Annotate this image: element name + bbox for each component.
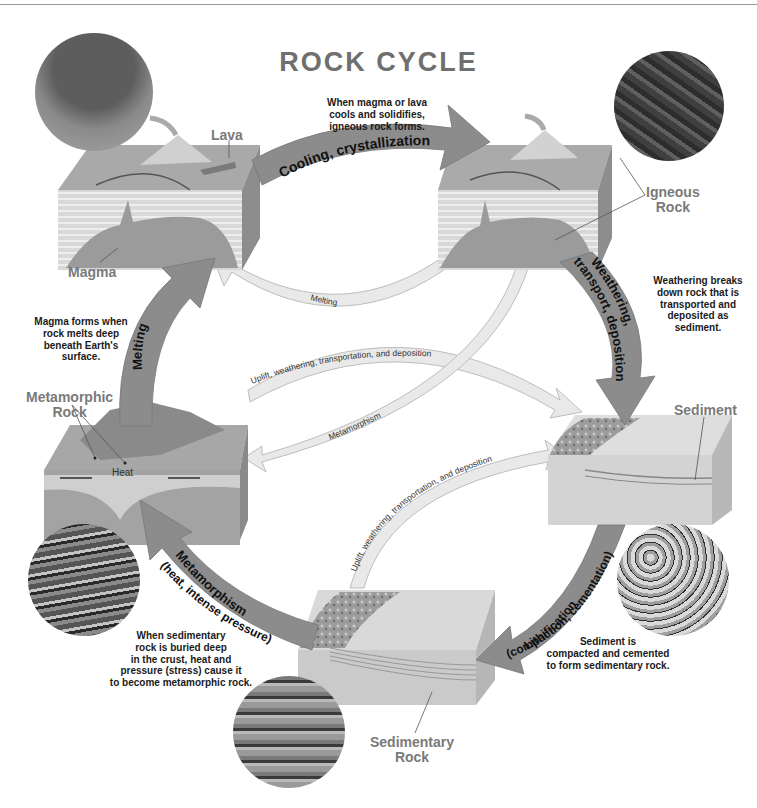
lava-photo (35, 33, 153, 151)
metamorphic-note-line: in the crust, heat and (96, 654, 266, 666)
metamorphic-note-line: When sedimentary (96, 630, 266, 642)
magma-label: Magma (68, 265, 116, 280)
sediment-label: Sediment (674, 403, 737, 418)
sediment-note: Sediment is compacted and cemented to fo… (538, 636, 678, 671)
metamorphic-rock-label: Metamorphic Rock (26, 390, 113, 419)
heat-label: Heat (112, 468, 133, 479)
sediment-photo (617, 524, 729, 636)
metamorphic-note-line: rock is buried deep (96, 642, 266, 654)
weathering-note-line: transported and (642, 299, 754, 311)
sediment-block (548, 415, 732, 525)
weathering-note-line: Weathering breaks (642, 275, 754, 287)
sedimentary-label-line2: Rock (370, 750, 454, 765)
weathering-note-line: down rock that is (642, 287, 754, 299)
igneous-note-line: When magma or lava (312, 97, 442, 109)
magma-note: Magma forms when rock melts deep beneath… (26, 316, 136, 363)
metamorphism-minor-label: Metamorphism (327, 410, 382, 442)
metamorphic-note: When sedimentary rock is buried deep in … (96, 630, 266, 689)
sediment-note-line: to form sedimentary rock. (538, 660, 678, 672)
magma-note-line: beneath Earth's (26, 340, 136, 352)
weathering-note-line: sediment. (642, 322, 754, 334)
sediment-note-line: Sediment is (538, 636, 678, 648)
igneous-rock-label: Igneous Rock (646, 185, 700, 214)
igneous-rock-photo (614, 51, 724, 161)
metamorphic-rock-photo (28, 524, 140, 636)
magma-note-line: rock melts deep (26, 328, 136, 340)
weathering-note: Weathering breaks down rock that is tran… (642, 275, 754, 334)
magma-note-line: surface. (26, 351, 136, 363)
metamorphic-note-line: pressure (stress) cause it (96, 665, 266, 677)
metamorphic-note-line: to become metamorphic rock. (96, 677, 266, 689)
uplift-meta-to-sediment-arrow (248, 347, 582, 418)
igneous-note-line: igneous rock forms. (312, 121, 442, 133)
lava-label: Lava (211, 128, 243, 143)
metamorphic-label-line1: Metamorphic (26, 390, 113, 405)
sedimentary-rock-block (298, 590, 495, 705)
minor-arrows (213, 254, 582, 588)
uplift-sedrock-to-sediment-arrow (350, 440, 566, 588)
sedimentary-label-line1: Sedimentary (370, 735, 454, 750)
igneous-label-line1: Igneous (646, 185, 700, 200)
igneous-note-line: cools and solidifies, (312, 109, 442, 121)
sedimentary-rock-label: Sedimentary Rock (370, 735, 454, 764)
igneous-note: When magma or lava cools and solidifies,… (312, 97, 442, 132)
weathering-note-line: deposited as (642, 310, 754, 322)
magma-note-line: Magma forms when (26, 316, 136, 328)
sediment-note-line: compacted and cemented (538, 648, 678, 660)
igneous-label-line2: Rock (646, 200, 700, 215)
metamorphic-label-line2: Rock (26, 405, 113, 420)
sedimentary-rock-photo (233, 676, 345, 788)
